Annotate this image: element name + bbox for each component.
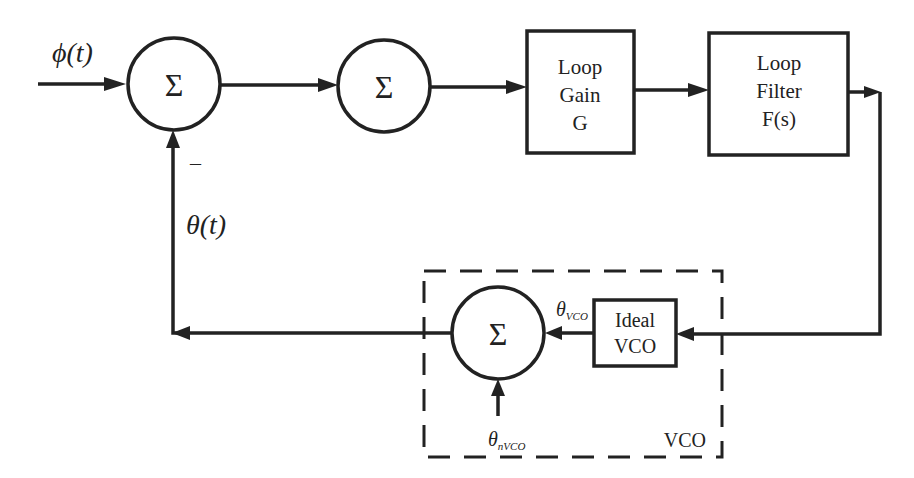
sum2-to-gain-arrow [430,80,527,94]
sigma-symbol: Σ [375,69,394,105]
svg-text:Loop: Loop [757,51,801,75]
svg-text:Gain: Gain [560,83,601,107]
summer-3: Σ [452,287,544,379]
svg-text:G: G [572,111,587,135]
theta-vco-label: θVCO [556,298,588,322]
sigma-symbol: Σ [489,316,508,352]
summer-1: Σ [128,38,220,130]
svg-text:Ideal: Ideal [615,309,655,331]
feedback-signal-label: θ(t) [186,209,226,240]
loop-gain-block: Loop Gain G [527,31,634,153]
feedback-sign: – [189,150,202,175]
svg-text:F(s): F(s) [762,107,796,131]
gain-to-filter-arrow [634,83,709,97]
loop-filter-block: Loop Filter F(s) [709,33,848,155]
input-signal-arrow [38,77,126,91]
sum1-to-sum2-arrow [220,78,338,92]
pll-block-diagram: ϕ(t) Σ Σ Loop Gain G Loop Filter F(s) [0,0,914,478]
sigma-symbol: Σ [165,67,184,103]
vco-group-label: VCO [664,429,706,451]
svg-text:Filter: Filter [756,79,802,103]
input-signal-label: ϕ(t) [52,37,93,68]
ideal-vco-block: Ideal VCO [594,300,676,366]
vco-noise-arrow [491,379,505,416]
vco-to-sum3-arrow [545,326,594,340]
theta-nvco-label: θnVCO [488,428,525,452]
svg-text:VCO: VCO [614,335,656,357]
summer-2: Σ [338,40,430,132]
svg-text:Loop: Loop [558,55,602,79]
